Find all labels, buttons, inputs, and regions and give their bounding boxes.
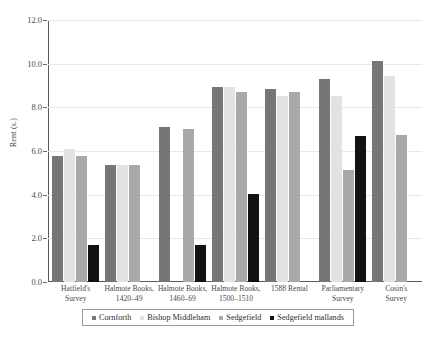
x-axis-category-label: Cosin'sSurvey <box>370 284 423 304</box>
x-axis-label-line: 1588 Rental <box>264 284 315 294</box>
x-axis-category-labels: Hatfield'sSurveyHalmote Books,1420–49Hal… <box>49 284 423 304</box>
bar-slot <box>224 20 235 282</box>
bar-group <box>156 20 209 282</box>
bar-slot <box>159 20 170 282</box>
y-axis-tick-label: 0.0 <box>31 277 42 287</box>
x-axis-label-line: Hatfield's <box>50 284 101 294</box>
bar-slot <box>277 20 288 282</box>
x-axis-label-line: Halmote Books, <box>210 284 261 294</box>
x-axis-label-line: Survey <box>371 294 422 304</box>
y-axis-tick-mark <box>43 195 47 196</box>
legend-item[interactable]: Cornforth <box>92 313 131 322</box>
x-axis-label-line: 1460–69 <box>157 294 208 304</box>
bar[interactable] <box>355 136 366 282</box>
y-axis-tick-mark <box>43 282 47 283</box>
bar-slot <box>105 20 116 282</box>
bar-slot <box>319 20 330 282</box>
bar[interactable] <box>52 156 63 282</box>
bar[interactable] <box>105 165 116 282</box>
bar[interactable] <box>277 96 288 282</box>
bar[interactable] <box>64 149 75 282</box>
bar-group <box>49 20 102 282</box>
bar-group <box>315 20 368 282</box>
bar[interactable] <box>265 89 276 282</box>
legend-swatch-icon <box>92 316 96 320</box>
y-axis-tick-label: 4.0 <box>31 190 42 200</box>
x-axis-label-line: 1500–1510 <box>210 294 261 304</box>
bar-slot <box>64 20 75 282</box>
x-axis-category-label: Halmote Books,1420–49 <box>102 284 155 304</box>
bar[interactable] <box>384 76 395 282</box>
x-axis-category-label: Halmote Books,1500–1510 <box>209 284 262 304</box>
bar[interactable] <box>183 129 194 282</box>
y-axis-tick-mark <box>43 64 47 65</box>
x-axis-category-label: Hatfield'sSurvey <box>49 284 102 304</box>
y-axis-tick-label: 12.0 <box>27 15 42 25</box>
legend-item[interactable]: Bishop Middleham <box>140 313 210 322</box>
x-axis-label-line: Parliamentary <box>317 284 368 294</box>
bar-groups <box>49 20 422 282</box>
bar-group <box>102 20 155 282</box>
bar[interactable] <box>129 165 140 282</box>
bar[interactable] <box>224 87 235 282</box>
gridline <box>48 282 422 283</box>
bar-slot <box>265 20 276 282</box>
bar-slot <box>76 20 87 282</box>
x-axis-label-line: Survey <box>317 294 368 304</box>
bar-slot <box>195 20 206 282</box>
bar-slot <box>343 20 354 282</box>
bar-slot <box>384 20 395 282</box>
y-axis-tick-label: 10.0 <box>27 59 42 69</box>
bar-slot <box>289 20 300 282</box>
bar[interactable] <box>319 79 330 282</box>
plot-area: 0.02.04.06.08.010.012.0 <box>48 20 422 282</box>
bar[interactable] <box>236 92 247 282</box>
y-axis-tick-mark <box>43 20 47 21</box>
bar-group <box>369 20 422 282</box>
bar-slot <box>408 20 419 282</box>
legend-swatch-icon <box>140 316 144 320</box>
bar[interactable] <box>396 135 407 282</box>
bar-slot <box>183 20 194 282</box>
y-axis-title: Rent (s.) <box>9 98 18 168</box>
legend-item[interactable]: Sedgefield mallands <box>270 313 344 322</box>
chart-legend: CornforthBishop MiddlehamSedgefieldSedge… <box>82 309 354 326</box>
y-axis-tick-label: 2.0 <box>31 233 42 243</box>
bar[interactable] <box>331 96 342 282</box>
bar[interactable] <box>212 87 223 282</box>
bar[interactable] <box>372 61 383 282</box>
bar[interactable] <box>248 194 259 282</box>
bar-slot <box>396 20 407 282</box>
x-axis-label-line: Survey <box>50 294 101 304</box>
legend-label: Bishop Middleham <box>147 313 210 322</box>
y-axis-tick-mark <box>43 238 47 239</box>
bar-group <box>262 20 315 282</box>
y-axis-tick-mark <box>43 151 47 152</box>
bar[interactable] <box>343 170 354 282</box>
legend-label: Sedgefield <box>226 313 261 322</box>
bar[interactable] <box>76 156 87 282</box>
bar-slot <box>236 20 247 282</box>
x-axis-category-label: 1588 Rental <box>263 284 316 304</box>
legend-label: Sedgefield mallands <box>277 313 344 322</box>
bar[interactable] <box>88 245 99 282</box>
y-axis-tick-label: 6.0 <box>31 146 42 156</box>
bar[interactable] <box>159 127 170 282</box>
legend-label: Cornforth <box>99 313 131 322</box>
bar-slot <box>372 20 383 282</box>
bar-slot <box>248 20 259 282</box>
x-axis-category-label: ParliamentarySurvey <box>316 284 369 304</box>
bar-slot <box>171 20 182 282</box>
bar-slot <box>355 20 366 282</box>
bar-slot <box>117 20 128 282</box>
bar[interactable] <box>117 165 128 282</box>
x-axis-label-line: Halmote Books, <box>157 284 208 294</box>
bar[interactable] <box>289 92 300 282</box>
bar-slot <box>141 20 152 282</box>
bar-slot <box>212 20 223 282</box>
bar[interactable] <box>195 245 206 282</box>
bar-chart: Rent (s.) 0.02.04.06.08.010.012.0 Hatfie… <box>0 0 431 340</box>
legend-item[interactable]: Sedgefield <box>219 313 261 322</box>
x-axis-label-line: Halmote Books, <box>103 284 154 294</box>
bar-group <box>209 20 262 282</box>
